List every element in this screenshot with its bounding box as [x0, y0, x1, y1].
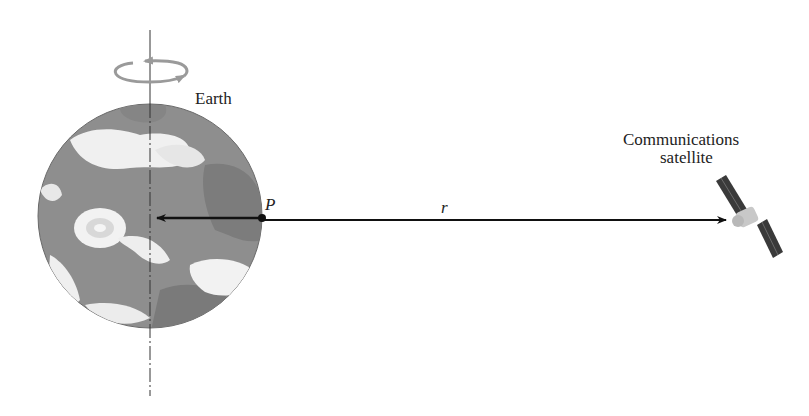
- diagram-canvas: [0, 0, 809, 416]
- satellite-label-line1: Communications: [623, 131, 739, 149]
- satellite-icon: [716, 175, 783, 258]
- point-p-label: P: [265, 196, 275, 214]
- satellite-label-line2: satellite: [660, 149, 713, 167]
- distance-r-label: r: [441, 199, 448, 217]
- rotation-arrow-icon: [115, 61, 187, 82]
- earth-satellite-diagram: Earth P r Communications satellite: [0, 0, 809, 416]
- earth-label: Earth: [195, 90, 232, 108]
